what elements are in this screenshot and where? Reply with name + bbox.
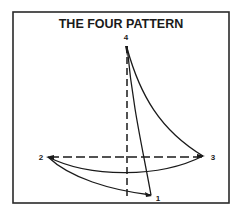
- curve-3-to-2: [48, 156, 203, 173]
- point-label-2: 2: [39, 153, 44, 162]
- diagram-title: THE FOUR PATTERN: [59, 17, 184, 31]
- point-label-1: 1: [156, 194, 161, 203]
- point-label-4: 4: [124, 33, 129, 42]
- curve-4-to-3: [127, 48, 203, 156]
- point-label-3: 3: [211, 153, 216, 162]
- curve-2-to-1: [48, 157, 151, 195]
- four-pattern-diagram: THE FOUR PATTERN 4 2 3 1: [0, 0, 239, 218]
- diagram-frame: [13, 12, 229, 203]
